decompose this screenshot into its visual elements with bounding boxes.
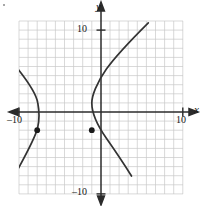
graph-canvas [0, 0, 207, 206]
x-axis-label: x [194, 103, 199, 115]
vertex-left-point [34, 127, 40, 133]
y-tick-label-10: 10 [77, 23, 87, 34]
x-tick-label-10: 10 [176, 114, 186, 125]
y-tick-label-neg10: –10 [72, 186, 87, 197]
y-axis-label: y [96, 0, 101, 12]
graph-figure: y x 10 –10 –10 10 [0, 0, 207, 206]
x-tick-label-neg10: –10 [7, 114, 22, 125]
y-axis-arrow-down [98, 196, 105, 205]
vertex-right-point [89, 127, 95, 133]
